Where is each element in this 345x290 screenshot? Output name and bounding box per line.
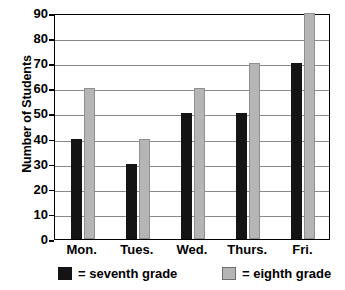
legend-label-seventh-grade: = seventh grade <box>78 267 177 280</box>
y-axis-tick-label: 10 <box>22 208 48 221</box>
x-axis-tick-label: Fri. <box>272 243 332 258</box>
chart-legend: = seventh grade = eighth grade <box>0 267 345 287</box>
x-axis-tick-labels: Mon.Tues.Wed.Thurs.Fri. <box>54 243 330 261</box>
bar-seventh-mon <box>71 139 82 239</box>
y-axis-tick-label: 90 <box>22 7 48 20</box>
y-axis-tick-mark <box>49 240 54 242</box>
legend-item-eighth-grade: = eighth grade <box>222 267 331 280</box>
bar-seventh-wed <box>181 113 192 239</box>
bar-eighth-wed <box>194 88 205 239</box>
legend-swatch-icon-seventh-grade <box>58 267 72 280</box>
plot-area <box>54 14 330 240</box>
x-axis-tick-label: Mon. <box>52 243 112 258</box>
y-axis-tick-label: 40 <box>22 133 48 146</box>
y-axis-tick-label: 70 <box>22 57 48 70</box>
bars-layer <box>55 15 329 239</box>
y-axis-tick-label: 0 <box>22 233 48 246</box>
legend-label-eighth-grade: = eighth grade <box>242 267 331 280</box>
y-axis-tick-label: 30 <box>22 158 48 171</box>
y-axis-tick-label: 60 <box>22 82 48 95</box>
x-axis-tick-label: Tues. <box>107 243 167 258</box>
x-axis-tick-label: Wed. <box>162 243 222 258</box>
bar-eighth-mon <box>84 88 95 239</box>
bar-seventh-tues <box>126 164 137 239</box>
y-axis-tick-label: 50 <box>22 107 48 120</box>
y-axis-tick-labels: 9080706050403020100 <box>20 0 48 290</box>
y-axis-tick-label: 80 <box>22 32 48 45</box>
bar-seventh-thurs <box>236 113 247 239</box>
bar-chart: Number of Students 9080706050403020100 M… <box>0 0 345 290</box>
bar-eighth-tues <box>139 139 150 239</box>
x-axis-tick-label: Thurs. <box>217 243 277 258</box>
y-axis-tick-label: 20 <box>22 183 48 196</box>
bar-eighth-thurs <box>249 63 260 239</box>
legend-swatch-icon-eighth-grade <box>222 267 236 280</box>
bar-seventh-fri <box>291 63 302 239</box>
legend-item-seventh-grade: = seventh grade <box>58 267 177 280</box>
bar-eighth-fri <box>304 13 315 239</box>
